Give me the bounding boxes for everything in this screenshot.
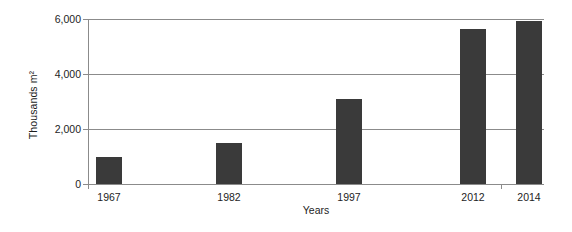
x-tick-mark	[88, 184, 89, 189]
y-tick-label: 0	[35, 179, 81, 189]
x-tick-label-1967: 1967	[74, 191, 144, 203]
gridline	[88, 19, 544, 20]
bar-chart: Thousands m² 02,0004,0006,00019671982199…	[0, 0, 572, 232]
x-axis-line	[88, 184, 544, 185]
y-tick-label: 6,000	[35, 14, 81, 24]
bar-1997	[336, 99, 362, 184]
x-axis-title: Years	[88, 204, 544, 216]
bar-2014	[516, 21, 542, 184]
bar-1982	[216, 143, 242, 184]
plot-area: 02,0004,0006,00019671982199720122014	[88, 19, 544, 184]
bar-1967	[96, 157, 122, 185]
y-tick-label: 4,000	[35, 69, 81, 79]
y-tick-mark	[83, 129, 88, 130]
y-axis-line	[88, 19, 89, 184]
x-tick-label-1997: 1997	[314, 191, 384, 203]
bar-2012	[460, 29, 486, 184]
y-tick-mark	[83, 74, 88, 75]
x-tick-label-2014: 2014	[494, 191, 564, 203]
y-tick-label: 2,000	[35, 124, 81, 134]
x-tick-label-1982: 1982	[194, 191, 264, 203]
y-tick-mark	[83, 19, 88, 20]
x-tick-mark	[501, 184, 502, 189]
y-axis-title: Thousands m²	[26, 20, 40, 190]
